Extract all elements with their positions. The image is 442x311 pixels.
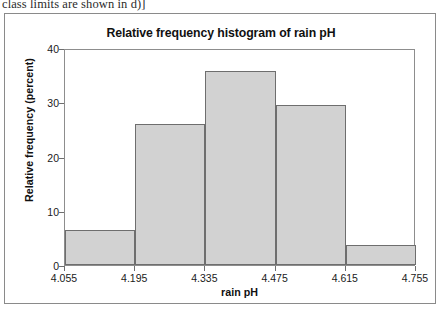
x-axis-tick-mark — [275, 266, 276, 271]
x-axis-tick-label: 4.755 — [385, 272, 442, 284]
x-axis-tick-mark — [204, 266, 205, 271]
x-axis-tick-label: 4.335 — [174, 272, 234, 284]
x-axis-tick-mark — [64, 266, 65, 271]
chart-title: Relative frequency histogram of rain pH — [5, 26, 437, 40]
plot-area — [64, 49, 415, 266]
x-axis-tick-label: 4.195 — [104, 272, 164, 284]
x-axis-tick-label: 4.615 — [315, 272, 375, 284]
x-axis-tick-labels: 4.0554.1954.3354.4754.6154.755 — [64, 272, 415, 286]
histogram-bar — [65, 230, 135, 265]
histogram-bar — [276, 105, 346, 265]
x-axis-title: rain pH — [64, 286, 415, 298]
histogram-bar — [205, 71, 275, 265]
x-axis-tick-mark — [415, 266, 416, 271]
y-axis-tick-label: 30 — [33, 97, 59, 109]
y-axis-tick-label: 10 — [33, 206, 59, 218]
y-axis-tick-labels: 010203040 — [27, 49, 59, 266]
x-axis-tick-label: 4.475 — [245, 272, 305, 284]
y-axis-tick-label: 20 — [33, 152, 59, 164]
y-axis-tick-label: 40 — [33, 43, 59, 55]
y-axis-tick-label: 0 — [33, 260, 59, 272]
histogram-bars — [65, 50, 414, 265]
excerpt-text: class limits are shown in d)] — [2, 0, 302, 11]
histogram-bar — [135, 124, 205, 265]
x-axis-tick-mark — [134, 266, 135, 271]
histogram-bar — [346, 245, 416, 265]
x-axis-tick-mark — [345, 266, 346, 271]
x-axis-tick-label: 4.055 — [34, 272, 94, 284]
figure-container: Relative frequency histogram of rain pH … — [4, 13, 436, 304]
